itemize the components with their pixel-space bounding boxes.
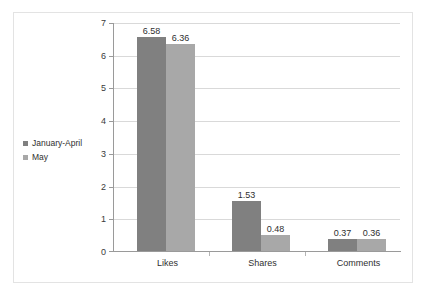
y-tick-label-1: 1 <box>88 215 106 224</box>
legend-label-january-april: January-April <box>32 139 82 148</box>
y-tick-label-0: 0 <box>88 248 106 257</box>
x-axis-label-shares: Shares <box>228 259 297 268</box>
bar-comments-january-april[interactable] <box>328 239 357 251</box>
x-axis-line <box>113 251 401 252</box>
data-label-shares-may: 0.48 <box>255 225 296 234</box>
legend-swatch-icon-may <box>23 155 28 160</box>
bar-shares-may[interactable] <box>261 235 290 251</box>
chart-legend: January-April May <box>23 136 103 164</box>
data-label-comments-may: 0.36 <box>351 229 392 238</box>
gridline-7 <box>113 23 400 24</box>
chart-container: 7 6 5 4 3 2 1 0 6.58 6.36 1.53 <box>0 0 426 297</box>
bar-comments-may[interactable] <box>357 239 386 251</box>
x-axis-label-comments: Comments <box>324 259 393 268</box>
legend-item-january-april[interactable]: January-April <box>23 136 103 150</box>
data-label-shares-january-april: 1.53 <box>226 191 267 200</box>
y-axis-line <box>113 23 114 252</box>
y-tick-label-2: 2 <box>88 183 106 192</box>
x-axis-tick-2 <box>305 252 306 256</box>
y-tick-label-6: 6 <box>88 52 106 61</box>
x-axis-tick-1 <box>209 252 210 256</box>
legend-swatch-icon-january-april <box>23 141 28 146</box>
x-axis-label-likes: Likes <box>133 259 202 268</box>
legend-label-may: May <box>32 153 48 162</box>
legend-item-may[interactable]: May <box>23 150 103 164</box>
data-label-likes-may: 6.36 <box>160 34 201 43</box>
plot-area: 6.58 6.36 1.53 0.48 0.37 0.36 <box>113 23 400 251</box>
bar-likes-january-april[interactable] <box>137 37 166 251</box>
bar-likes-may[interactable] <box>166 44 195 251</box>
y-tick-label-5: 5 <box>88 84 106 93</box>
y-tick-label-4: 4 <box>88 117 106 126</box>
y-tick-label-7: 7 <box>88 19 106 28</box>
